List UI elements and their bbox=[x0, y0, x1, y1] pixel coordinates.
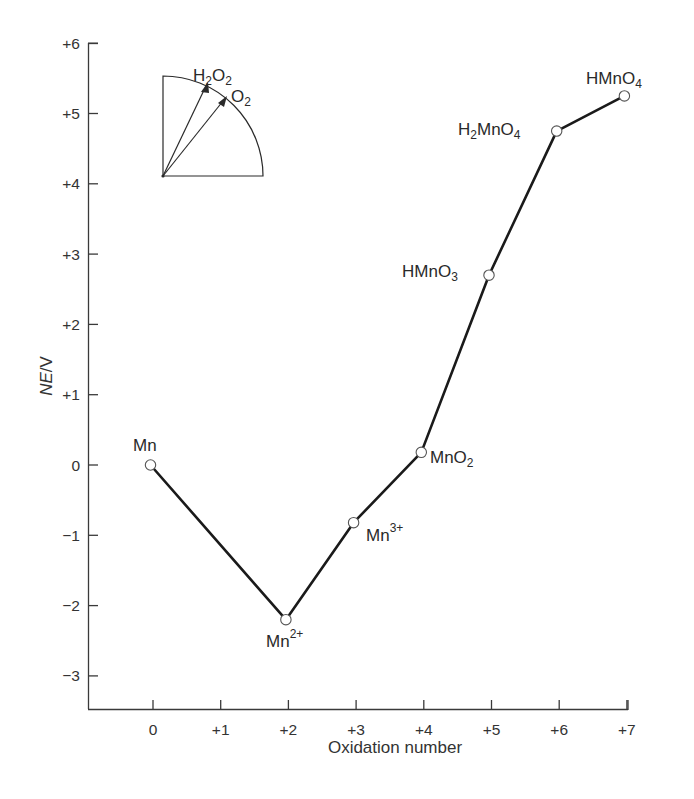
x-tick-label: +3 bbox=[347, 721, 365, 738]
x-tick-label: 0 bbox=[149, 721, 158, 738]
point-label-mn: Mn bbox=[133, 436, 157, 455]
point-label-mno2: MnO2 bbox=[430, 448, 474, 470]
axes bbox=[88, 43, 628, 710]
y-tick-label: +5 bbox=[62, 105, 80, 122]
data-point-marker bbox=[281, 614, 291, 624]
y-tick-label: +3 bbox=[62, 246, 80, 263]
y-tick-label: 0 bbox=[71, 457, 80, 474]
frost-diagram-chart: +6+5+4+3+2+10−1−2−3 0+1+2+3+4+5+6+7 Oxid… bbox=[0, 0, 694, 799]
y-tick-label: +4 bbox=[62, 175, 80, 192]
x-axis-title: Oxidation number bbox=[328, 738, 463, 757]
data-point-marker bbox=[145, 460, 155, 470]
y-axis-title-italic: NE bbox=[37, 372, 56, 396]
x-ticks: 0+1+2+3+4+5+6+7 bbox=[149, 700, 636, 738]
data-point-marker bbox=[484, 270, 494, 280]
x-tick-label: +7 bbox=[618, 721, 636, 738]
y-axis-title: NE/V bbox=[37, 355, 56, 395]
data-point-marker bbox=[552, 126, 562, 136]
x-tick-label: +4 bbox=[415, 721, 433, 738]
inset-label-o2: O2 bbox=[231, 87, 251, 109]
y-tick-label: −3 bbox=[62, 667, 80, 684]
inset-origin-dot bbox=[161, 174, 164, 177]
inset-quadrant-diagram bbox=[161, 76, 263, 178]
y-tick-label: −2 bbox=[62, 597, 80, 614]
y-tick-label: +6 bbox=[62, 35, 80, 52]
point-label-hmno4: HMnO4 bbox=[586, 69, 642, 91]
point-label-hmno3: HMnO3 bbox=[402, 262, 458, 284]
data-point-marker bbox=[619, 91, 629, 101]
point-label-mn3plus: Mn3+ bbox=[366, 521, 403, 545]
inset-label-h2o2: H2O2 bbox=[193, 66, 232, 88]
y-ticks: +6+5+4+3+2+10−1−2−3 bbox=[62, 35, 98, 685]
point-label-h2mno4: H2MnO4 bbox=[458, 120, 521, 142]
x-tick-label: +5 bbox=[483, 721, 501, 738]
data-point-marker bbox=[416, 447, 426, 457]
x-tick-label: +2 bbox=[280, 721, 298, 738]
y-tick-label: −1 bbox=[62, 527, 80, 544]
quadrant-outline bbox=[163, 76, 263, 176]
y-tick-label: +2 bbox=[62, 316, 80, 333]
x-tick-label: +6 bbox=[550, 721, 568, 738]
point-label-mn2plus: Mn2+ bbox=[266, 627, 303, 651]
data-point-marker bbox=[348, 517, 358, 527]
x-tick-label: +1 bbox=[212, 721, 230, 738]
y-tick-label: +1 bbox=[62, 386, 80, 403]
y-axis-title-unit: /V bbox=[37, 355, 56, 372]
